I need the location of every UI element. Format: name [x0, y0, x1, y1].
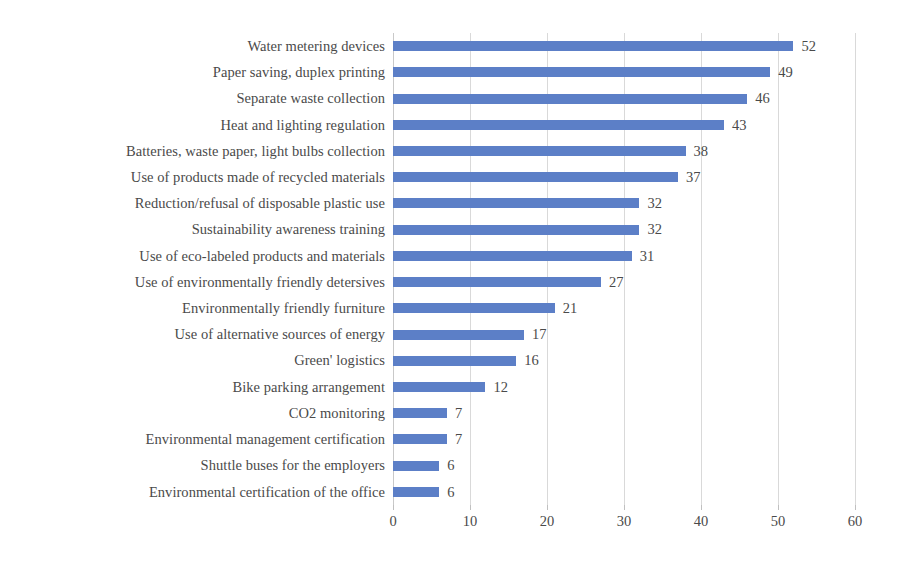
bar-value-label: 32 — [647, 196, 662, 211]
bar-group: 52 — [393, 33, 816, 59]
x-tick-label: 10 — [463, 514, 478, 529]
bar-group: 43 — [393, 112, 747, 138]
bar-value-label: 43 — [732, 118, 747, 133]
bar-group: 32 — [393, 190, 662, 216]
bar-row[interactable]: Paper saving, duplex printing49 — [0, 59, 903, 85]
bar-value-label: 49 — [778, 65, 793, 80]
category-label: Sustainability awareness training — [0, 222, 385, 237]
bar[interactable] — [393, 67, 770, 77]
category-label: Environmentally friendly furniture — [0, 301, 385, 316]
category-label: Green' logistics — [0, 353, 385, 368]
bar[interactable] — [393, 330, 524, 340]
bar-row[interactable]: Reduction/refusal of disposable plastic … — [0, 190, 903, 216]
bar-row[interactable]: Use of alternative sources of energy17 — [0, 321, 903, 347]
category-label: Bike parking arrangement — [0, 380, 385, 395]
bar-value-label: 16 — [524, 353, 539, 368]
x-tick-mark-0 — [393, 505, 394, 510]
category-label: Use of products made of recycled materia… — [0, 170, 385, 185]
x-tick-mark-30 — [624, 505, 625, 510]
bar-group: 32 — [393, 217, 662, 243]
category-label: Use of eco-labeled products and material… — [0, 249, 385, 264]
bar[interactable] — [393, 487, 439, 497]
bar-row[interactable]: Batteries, waste paper, light bulbs coll… — [0, 138, 903, 164]
x-tick-mark-50 — [778, 505, 779, 510]
bar-row[interactable]: Environmental management certification7 — [0, 426, 903, 452]
bar-value-label: 37 — [686, 170, 701, 185]
bar-value-label: 21 — [563, 301, 578, 316]
bar-value-label: 6 — [447, 458, 454, 473]
bar-value-label: 31 — [640, 249, 655, 264]
bar-value-label: 52 — [801, 39, 816, 54]
x-tick-label: 30 — [617, 514, 632, 529]
bar[interactable] — [393, 277, 601, 287]
bar-row[interactable]: Shuttle buses for the employers6 — [0, 453, 903, 479]
category-label: Separate waste collection — [0, 91, 385, 106]
x-tick-mark-60 — [855, 505, 856, 510]
bar[interactable] — [393, 434, 447, 444]
x-tick-label: 50 — [771, 514, 786, 529]
bar-value-label: 12 — [493, 380, 508, 395]
bar-row[interactable]: Heat and lighting regulation43 — [0, 112, 903, 138]
bar[interactable] — [393, 120, 724, 130]
bar-group: 31 — [393, 243, 654, 269]
x-tick-mark-20 — [547, 505, 548, 510]
bar-row[interactable]: Green' logistics16 — [0, 348, 903, 374]
category-label: Water metering devices — [0, 39, 385, 54]
bar[interactable] — [393, 461, 439, 471]
bar-group: 12 — [393, 374, 508, 400]
x-tick-label: 20 — [540, 514, 555, 529]
bar[interactable] — [393, 41, 793, 51]
bar[interactable] — [393, 356, 516, 366]
category-label: Paper saving, duplex printing — [0, 65, 385, 80]
bar-row[interactable]: Use of environmentally friendly detersiv… — [0, 269, 903, 295]
bar[interactable] — [393, 251, 632, 261]
bar-group: 16 — [393, 348, 539, 374]
bar-value-label: 7 — [455, 432, 462, 447]
bar-row[interactable]: Use of products made of recycled materia… — [0, 164, 903, 190]
x-axis: 0102030405060 — [393, 505, 855, 545]
bar-row[interactable]: Sustainability awareness training32 — [0, 217, 903, 243]
x-tick-mark-40 — [701, 505, 702, 510]
bar-value-label: 17 — [532, 327, 547, 342]
bar-group: 6 — [393, 453, 454, 479]
category-label: Shuttle buses for the employers — [0, 458, 385, 473]
category-label: Use of environmentally friendly detersiv… — [0, 275, 385, 290]
category-label: Use of alternative sources of energy — [0, 327, 385, 342]
bar[interactable] — [393, 408, 447, 418]
bar-row[interactable]: Separate waste collection46 — [0, 85, 903, 111]
bar-row[interactable]: Use of eco-labeled products and material… — [0, 243, 903, 269]
bar-group: 17 — [393, 321, 546, 347]
category-label: Reduction/refusal of disposable plastic … — [0, 196, 385, 211]
bar-group: 7 — [393, 400, 462, 426]
bar-group: 49 — [393, 59, 793, 85]
category-label: Environmental management certification — [0, 432, 385, 447]
bar-row[interactable]: Bike parking arrangement12 — [0, 374, 903, 400]
category-label: CO2 monitoring — [0, 406, 385, 421]
x-tick-label: 0 — [389, 514, 396, 529]
bar-value-label: 38 — [694, 144, 709, 159]
bar-row[interactable]: CO2 monitoring7 — [0, 400, 903, 426]
category-label: Batteries, waste paper, light bulbs coll… — [0, 144, 385, 159]
category-label: Heat and lighting regulation — [0, 118, 385, 133]
bar-group: 37 — [393, 164, 700, 190]
bar-value-label: 7 — [455, 406, 462, 421]
bar-group: 7 — [393, 426, 462, 452]
bar[interactable] — [393, 303, 555, 313]
category-label: Environmental certification of the offic… — [0, 485, 385, 500]
bar[interactable] — [393, 146, 686, 156]
bar-value-label: 32 — [647, 222, 662, 237]
bar-value-label: 6 — [447, 485, 454, 500]
x-tick-label: 40 — [694, 514, 709, 529]
bar-group: 21 — [393, 295, 577, 321]
bar[interactable] — [393, 94, 747, 104]
bar-row[interactable]: Environmentally friendly furniture21 — [0, 295, 903, 321]
bar-value-label: 46 — [755, 91, 770, 106]
bar[interactable] — [393, 382, 485, 392]
bar[interactable] — [393, 225, 639, 235]
bar-value-label: 27 — [609, 275, 624, 290]
x-tick-mark-10 — [470, 505, 471, 510]
bar-row[interactable]: Environmental certification of the offic… — [0, 479, 903, 505]
bar-row[interactable]: Water metering devices52 — [0, 33, 903, 59]
bar[interactable] — [393, 198, 639, 208]
bar[interactable] — [393, 172, 678, 182]
